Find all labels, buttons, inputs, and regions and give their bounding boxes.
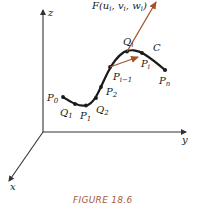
label-q-i: Qi	[123, 36, 133, 49]
x-axis-label: x	[10, 181, 16, 192]
point-q1	[73, 102, 77, 106]
y-axis-label: y	[181, 134, 188, 145]
label-q2: Q2	[96, 104, 109, 117]
label-p-n: Pn	[158, 75, 171, 88]
point-p0	[61, 95, 65, 99]
label-p1: P1	[79, 110, 91, 123]
label-p2: P2	[105, 86, 118, 99]
z-axis-label: z	[47, 7, 54, 18]
label-p-i-minus-1: Pi−1	[112, 71, 132, 84]
coordinate-axes: z y x	[9, 7, 188, 192]
vector-f-label: F(ui, vi, wi)	[91, 0, 147, 13]
curve-label-c: C	[153, 42, 161, 53]
x-axis	[9, 132, 43, 181]
figure-18-6-diagram: z y x F(ui, vi, wi) C P0 Q1 P1 Q2	[0, 0, 199, 212]
point-p-n	[163, 68, 167, 72]
point-p2	[99, 85, 103, 89]
label-q1: Q1	[60, 107, 73, 120]
point-q2	[94, 96, 98, 100]
label-p-i: Pi	[140, 58, 150, 71]
point-p-i	[140, 51, 144, 55]
figure-caption: FIGURE 18.6	[73, 195, 133, 205]
label-p0: P0	[46, 92, 59, 105]
point-p1	[84, 104, 88, 108]
